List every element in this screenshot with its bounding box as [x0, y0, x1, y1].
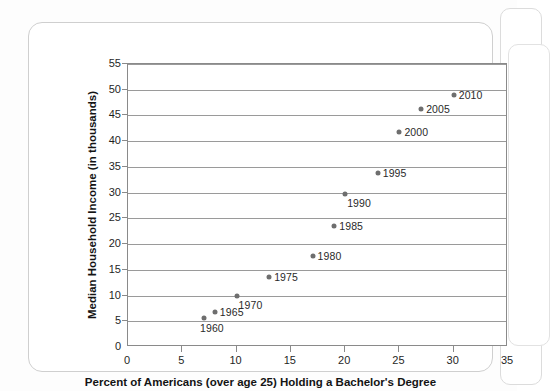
y-tick-label-5: 5 — [115, 314, 121, 326]
plot-area: 1960196519701975198019851990199520002005… — [127, 63, 507, 346]
y-tick-label-0: 0 — [115, 340, 121, 352]
y-tick-label-20: 20 — [109, 237, 121, 249]
x-tick-label-35: 35 — [501, 354, 513, 366]
data-point-1975 — [267, 274, 272, 279]
data-point-label-1975: 1975 — [274, 271, 298, 283]
data-point-label-2000: 2000 — [404, 126, 428, 138]
data-point-1960 — [202, 316, 207, 321]
y-tick-label-35: 35 — [109, 160, 121, 172]
data-point-label-2010: 2010 — [459, 89, 483, 101]
x-tick-mark-5 — [181, 346, 182, 352]
x-tick-label-5: 5 — [178, 354, 184, 366]
figure-card: Median Household Income (in thousands) 5… — [28, 22, 493, 372]
gridline-y-50 — [128, 90, 506, 91]
data-point-2010 — [451, 92, 456, 97]
data-point-label-1980: 1980 — [318, 250, 342, 262]
x-tick-label-0: 0 — [124, 354, 130, 366]
y-tick-label-30: 30 — [109, 186, 121, 198]
y-axis-title-wrap: Median Household Income (in thousands) — [63, 63, 83, 346]
data-point-1965 — [212, 310, 217, 315]
y-tick-label-25: 25 — [109, 211, 121, 223]
y-tick-label-15: 15 — [109, 263, 121, 275]
data-point-2005 — [419, 107, 424, 112]
data-point-2000 — [397, 129, 402, 134]
data-point-label-2005: 2005 — [426, 103, 450, 115]
x-tick-mark-10 — [236, 346, 237, 352]
x-tick-mark-30 — [453, 346, 454, 352]
y-tick-label-45: 45 — [109, 108, 121, 120]
x-tick-mark-25 — [398, 346, 399, 352]
data-point-1980 — [310, 254, 315, 259]
gridline-y-35 — [128, 167, 506, 168]
data-point-1995 — [375, 170, 380, 175]
data-point-label-1985: 1985 — [339, 220, 363, 232]
y-tick-label-40: 40 — [109, 134, 121, 146]
x-tick-label-10: 10 — [229, 354, 241, 366]
x-axis-title: Percent of Americans (over age 25) Holdi… — [29, 376, 492, 388]
gridline-y-10 — [128, 296, 506, 297]
x-tick-label-15: 15 — [284, 354, 296, 366]
data-point-label-1960: 1960 — [200, 322, 224, 334]
gridline-y-40 — [128, 141, 506, 142]
gridline-y-45 — [128, 115, 506, 116]
x-tick-mark-15 — [290, 346, 291, 352]
x-tick-mark-20 — [344, 346, 345, 352]
y-tick-label-50: 50 — [109, 83, 121, 95]
gridline-y-30 — [128, 193, 506, 194]
adjacent-panel-edge-secondary — [508, 44, 550, 346]
data-point-label-1995: 1995 — [383, 167, 407, 179]
y-tick-label-55: 55 — [109, 57, 121, 69]
y-tick-label-10: 10 — [109, 289, 121, 301]
gridline-y-20 — [128, 244, 506, 245]
x-tick-label-25: 25 — [392, 354, 404, 366]
data-point-1985 — [332, 224, 337, 229]
data-point-1970 — [234, 294, 239, 299]
data-point-1990 — [343, 191, 348, 196]
y-axis-tick-labels: 5101520253035404550550 — [87, 23, 121, 371]
gridline-y-15 — [128, 270, 506, 271]
data-point-label-1970: 1970 — [239, 299, 263, 311]
gridline-y-25 — [128, 218, 506, 219]
data-point-label-1990: 1990 — [347, 197, 371, 209]
gridline-y-55 — [128, 64, 506, 65]
gridline-y-5 — [128, 321, 506, 322]
x-tick-label-30: 30 — [447, 354, 459, 366]
x-tick-label-20: 20 — [338, 354, 350, 366]
